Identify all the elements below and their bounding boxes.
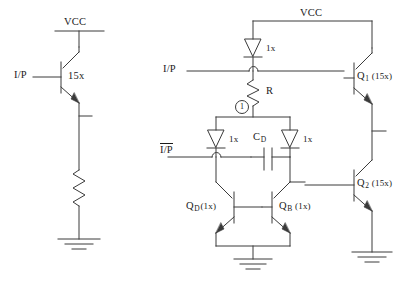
center-emitter-bus (216, 233, 290, 259)
q1-base (344, 63, 354, 94)
qb-base-letter: Q (279, 200, 287, 211)
right-clamp-bus (216, 117, 290, 130)
left-output-stub (79, 103, 92, 170)
center-ground-symbol (234, 259, 272, 269)
capacitor-cd-sub: D (260, 135, 267, 144)
complement-input-text: I/P (160, 143, 173, 156)
q1-size-label: (15x) (370, 71, 393, 81)
q1-subscript: 1 (365, 74, 370, 83)
qd-base-letter: Q (186, 200, 194, 211)
qb-emitter-arrow (282, 223, 290, 233)
qb-collector-lead (274, 157, 305, 198)
transistor-q2-label: Q2(15x) (357, 178, 392, 190)
right-diode-size-label: 1x (303, 135, 312, 144)
schematic-canvas: VCC I/P 15x VCC 1x I/P R 1 1x 1x CD I/P … (0, 0, 412, 282)
left-resistor (73, 170, 85, 206)
complement-input-label: I/P (160, 143, 173, 156)
left-vcc-label: VCC (64, 17, 86, 28)
right-vcc-label: VCC (300, 8, 322, 19)
transistor-qb-label: QB(1x) (279, 201, 311, 213)
right-complement-input-rail (168, 153, 251, 158)
qd-size-label: (1x) (200, 201, 216, 211)
q2-subscript: 2 (365, 181, 370, 190)
qb-size-label: (1x) (293, 201, 311, 211)
node-1-marker: 1 (235, 100, 249, 114)
left-diode-size-label: 1x (229, 135, 238, 144)
left-input-label: I/P (14, 70, 27, 81)
q1-collector-lead (356, 48, 372, 69)
right-input-rail (187, 67, 344, 72)
capacitor-cd (251, 148, 290, 170)
qd-collector-lead (216, 157, 232, 198)
qd-base (234, 192, 262, 223)
transistor-q1-label: Q1(15x) (357, 71, 392, 83)
top-diode-size-label: 1x (266, 44, 275, 53)
capacitor-cd-label: CD (253, 132, 267, 144)
right-ground-symbol (352, 252, 392, 262)
left-ground-symbol (58, 239, 100, 249)
right-input-label: I/P (163, 64, 176, 75)
resistor-r-label: R (266, 86, 273, 97)
q2-base-letter: Q (357, 177, 365, 188)
left-transistor-collector-lead (63, 47, 79, 68)
right-output-stub (356, 104, 386, 176)
qd-emitter-arrow (216, 223, 224, 233)
left-transistor-emitter-arrow (71, 93, 79, 103)
transistor-qd-label: QD(1x) (186, 201, 216, 213)
q2-size-label: (15x) (370, 178, 393, 188)
q2-emitter-arrow (364, 201, 372, 211)
circuit-schematic-drawing (0, 0, 412, 282)
q2-base (305, 170, 354, 201)
left-transistor-size-label: 15x (68, 71, 84, 82)
q1-base-letter: Q (357, 70, 365, 81)
q1-emitter-arrow (364, 94, 372, 104)
right-right-diode (281, 130, 299, 157)
right-resistor-r (247, 71, 259, 117)
left-vcc-rail (55, 31, 104, 47)
left-transistor-base (33, 62, 61, 93)
qb-base (262, 192, 272, 223)
